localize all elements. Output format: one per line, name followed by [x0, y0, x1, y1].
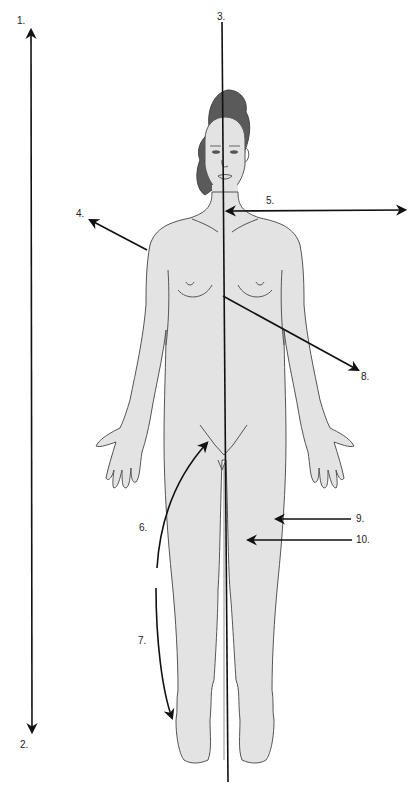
- label-5: 5.: [266, 196, 274, 206]
- arrow-7: [156, 588, 172, 718]
- anatomy-diagram: 1. 2. 3. 4. 5. 6. 7. 8. 9. 10.: [0, 0, 417, 806]
- label-3: 3.: [217, 12, 225, 22]
- label-10: 10.: [356, 535, 370, 545]
- label-2: 2.: [20, 740, 28, 750]
- superior-inferior-arrow: [31, 30, 32, 732]
- arrow-4: [90, 220, 147, 250]
- label-1: 1.: [17, 16, 25, 26]
- label-6: 6.: [139, 523, 147, 533]
- label-8: 8.: [361, 372, 369, 382]
- body-figure: [0, 0, 417, 806]
- arrow-5: [227, 210, 405, 211]
- label-7: 7.: [138, 636, 146, 646]
- label-4: 4.: [76, 209, 84, 219]
- label-9: 9.: [356, 514, 364, 524]
- face: [205, 117, 245, 193]
